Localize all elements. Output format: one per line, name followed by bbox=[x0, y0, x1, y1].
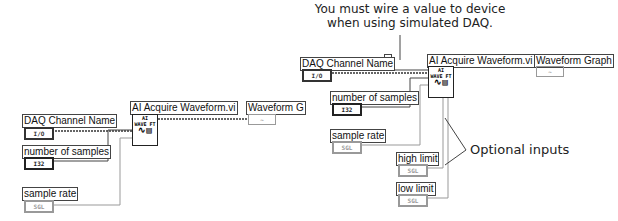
graph-terminal[interactable]: ~ bbox=[248, 114, 276, 125]
rate-label: sample rate bbox=[22, 187, 78, 201]
i32-terminal[interactable]: I32 bbox=[24, 157, 54, 170]
io-terminal[interactable]: I/O bbox=[24, 127, 54, 140]
sgl-terminal[interactable]: SGL bbox=[24, 200, 54, 213]
i32-terminal-r[interactable]: I32 bbox=[332, 103, 362, 116]
low-limit-terminal[interactable]: SGL bbox=[398, 194, 428, 207]
optional-inputs-note: Optional inputs bbox=[470, 143, 569, 157]
io-terminal-r[interactable]: I/O bbox=[302, 69, 332, 82]
vi-icon[interactable]: AIWAVE FT∿▤ bbox=[132, 114, 158, 146]
vi-label: AI Acquire Waveform.vi bbox=[130, 101, 238, 115]
wires bbox=[0, 0, 618, 221]
vi-icon-r[interactable]: AIWAVE FT∿▤ bbox=[428, 66, 454, 98]
graph-terminal-r[interactable]: ~ bbox=[536, 66, 564, 77]
daq-channel-label: DAQ Channel Name bbox=[22, 114, 117, 128]
waveform-icon: ∿▤ bbox=[434, 77, 447, 87]
waveform-icon: ∿▤ bbox=[138, 125, 151, 135]
high-limit-terminal[interactable]: SGL bbox=[398, 164, 428, 177]
device-note: You must wire a value to devicewhen usin… bbox=[300, 2, 520, 30]
sgl-terminal-r[interactable]: SGL bbox=[332, 141, 362, 154]
graph-label: Waveform G bbox=[246, 101, 306, 115]
